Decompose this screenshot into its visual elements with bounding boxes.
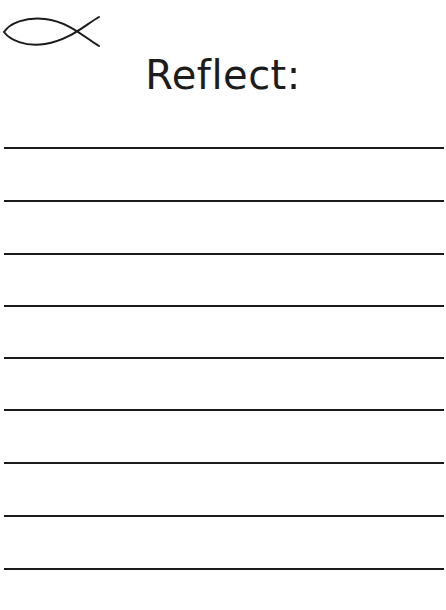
ichthys-fish-icon <box>0 10 110 55</box>
writing-line <box>4 253 444 255</box>
page-title: Reflect: <box>0 52 446 98</box>
writing-line <box>4 409 444 411</box>
writing-line <box>4 147 444 149</box>
writing-line <box>4 305 444 307</box>
writing-line <box>4 515 444 517</box>
writing-line <box>4 357 444 359</box>
writing-line <box>4 200 444 202</box>
cut-off-header-text <box>0 0 160 2</box>
writing-line <box>4 568 444 570</box>
writing-line <box>4 462 444 464</box>
